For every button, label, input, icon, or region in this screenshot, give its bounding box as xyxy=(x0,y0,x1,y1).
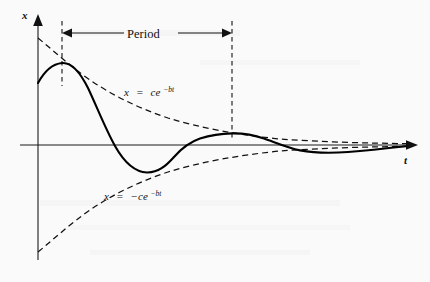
y-axis-label: x xyxy=(21,9,28,21)
lower-eq-equals: = xyxy=(117,190,123,202)
upper-eq-lhs: x xyxy=(123,86,129,98)
lower-eq-exponent: −bt xyxy=(151,189,163,198)
lower-eq-coefficient: −ce xyxy=(131,190,148,202)
figure-container: x t Period x = ce −bt xyxy=(0,0,430,282)
damped-oscillation-plot: x t Period x = ce −bt xyxy=(0,0,430,282)
upper-eq-exponent: −bt xyxy=(163,85,175,94)
lower-eq-lhs: x xyxy=(103,190,109,202)
period-label: Period xyxy=(127,27,160,41)
upper-eq-coefficient: ce xyxy=(151,86,161,98)
upper-eq-equals: = xyxy=(137,86,143,98)
scan-noise-texture xyxy=(0,0,430,282)
